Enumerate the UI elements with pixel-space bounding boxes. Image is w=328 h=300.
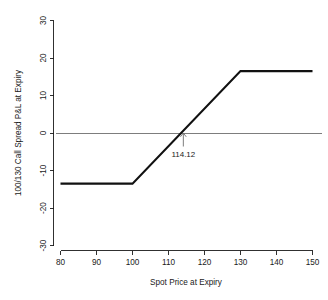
x-tick-label-140: 140: [270, 258, 284, 267]
y-tick-label-20: 20: [39, 53, 48, 63]
y-tick-label-neg20: -20: [39, 202, 48, 214]
y-tick-label-neg30: -30: [39, 239, 48, 251]
y-tick-label-30: 30: [39, 16, 48, 26]
x-tick-label-120: 120: [198, 258, 212, 267]
y-axis: 30 20 10 0 -10 -20 -30 100/130 Call Spre…: [14, 16, 53, 252]
x-tick-label-150: 150: [306, 258, 320, 267]
chart-canvas: 30 20 10 0 -10 -20 -30 100/130 Call Spre…: [0, 0, 328, 300]
payoff-line: [61, 71, 313, 184]
y-axis-title: 100/130 Call Spread P&L at Expiry: [14, 69, 23, 196]
payoff-chart: 30 20 10 0 -10 -20 -30 100/130 Call Spre…: [0, 0, 328, 300]
breakeven-annotation: 114.12: [171, 133, 195, 159]
y-tick-label-10: 10: [39, 91, 48, 101]
y-tick-label-0: 0: [39, 130, 48, 135]
x-axis: 80 90 100 110 120 130 140 150 Spot Price…: [56, 251, 320, 288]
x-axis-title: Spot Price at Expiry: [150, 278, 223, 287]
x-tick-label-100: 100: [126, 258, 140, 267]
breakeven-label: 114.12: [171, 150, 195, 159]
x-tick-label-110: 110: [162, 258, 175, 267]
x-tick-label-90: 90: [92, 258, 102, 267]
x-tick-label-130: 130: [234, 258, 248, 267]
y-tick-label-neg10: -10: [39, 164, 48, 176]
x-tick-label-80: 80: [56, 258, 66, 267]
